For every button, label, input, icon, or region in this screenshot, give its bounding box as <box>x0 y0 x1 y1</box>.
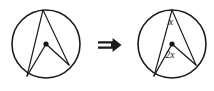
right-circle-group: x 2x <box>138 10 206 78</box>
left-center-dot <box>43 41 48 46</box>
arrow-shape <box>98 38 122 52</box>
central-angle-label: 2x <box>166 50 176 60</box>
right-center-dot <box>169 41 174 46</box>
left-circle-group <box>12 10 80 78</box>
geometry-diagram: x 2x <box>0 0 214 91</box>
inscribed-angle-label: x <box>168 16 174 27</box>
diagram-canvas: x 2x <box>0 0 214 91</box>
implies-double-arrow-icon <box>98 38 122 52</box>
